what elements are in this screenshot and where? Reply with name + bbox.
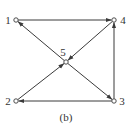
node-2 <box>14 99 18 103</box>
edge-5-to-1 <box>18 22 64 61</box>
node-label-3: 3 <box>119 95 125 107</box>
nodes: 12345 <box>5 14 126 107</box>
node-label-1: 1 <box>5 14 11 26</box>
figure-caption: (b) <box>60 111 73 124</box>
directed-graph: 12345 (b) <box>0 0 134 129</box>
node-1 <box>14 18 18 22</box>
node-4 <box>112 18 116 22</box>
node-label-5: 5 <box>60 46 66 58</box>
node-5 <box>64 60 68 64</box>
edge-2-to-5 <box>18 64 64 100</box>
edge-5-to-3 <box>68 63 112 99</box>
edge-4-to-5 <box>68 21 112 60</box>
node-label-2: 2 <box>5 95 11 107</box>
node-label-4: 4 <box>120 14 126 26</box>
node-3 <box>112 99 116 103</box>
